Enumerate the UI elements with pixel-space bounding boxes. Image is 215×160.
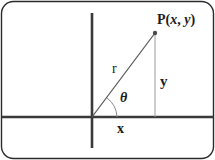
vertical-leg-label: y [160, 74, 168, 89]
point-p-label: P(x, y) [157, 13, 195, 27]
polar-coordinates-figure: P(x, y) r y x θ [0, 0, 215, 160]
angle-theta-label: θ [120, 91, 127, 105]
point-label-suffix: ) [190, 12, 195, 27]
horizontal-leg-label: x [117, 122, 124, 136]
point-p-marker [153, 31, 157, 35]
point-label-prefix: P( [157, 12, 170, 27]
radius-label: r [112, 62, 117, 76]
